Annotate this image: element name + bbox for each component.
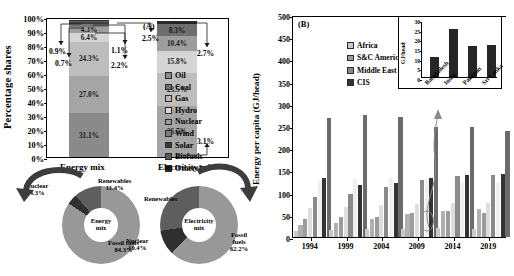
bar-group-1999 xyxy=(329,115,367,237)
bar-africa-2019 xyxy=(472,229,476,237)
legend-swatch xyxy=(347,42,354,49)
panel-b-tick-mark xyxy=(290,84,294,85)
panel-b-x-label-1999: 1999 xyxy=(338,242,354,251)
bar-asiapacific-1999 xyxy=(334,223,338,237)
panel-a-y-tick: 10% xyxy=(27,141,44,150)
donut-electricity-mix-center: Electricity mix xyxy=(182,208,216,242)
legend-swatch xyxy=(347,67,354,74)
panel-b-tick-mark xyxy=(290,61,294,62)
panel-b-tick-mark xyxy=(290,172,294,173)
panel-b-tick-mark xyxy=(290,128,294,129)
panel-a-y-tick: 100% xyxy=(23,15,44,24)
callout-leader-lines xyxy=(47,19,230,159)
bar-europe-2004 xyxy=(389,178,393,237)
bar-africa-1994 xyxy=(294,231,298,237)
legend-label: CIS xyxy=(357,78,370,87)
panel-a-y-tick: 40% xyxy=(27,99,44,108)
inset-plot-area: 302520151050 xyxy=(421,22,497,78)
bar-scamerica-2019 xyxy=(482,213,486,237)
inset-tick-mark xyxy=(420,51,423,52)
panel-b: Energy per capita (GJ/head) (B) 50045040… xyxy=(250,0,514,276)
inset-bar-india xyxy=(449,29,458,77)
inset-y-axis-label: GJ/head xyxy=(400,31,409,75)
donut2-center-line2: mix xyxy=(194,225,205,232)
bar-cis-1999 xyxy=(358,185,362,237)
curved-arrow-to-electricity-donut xyxy=(196,158,254,208)
panel-b-x-label-2004: 2004 xyxy=(373,242,389,251)
panel-b-x-tick xyxy=(311,237,312,241)
inset-tick-mark xyxy=(420,22,423,23)
annotation-arrow-2019 xyxy=(401,109,461,231)
bar-asiapacific-1994 xyxy=(298,225,302,237)
legend-swatch xyxy=(347,55,354,62)
legend-swatch xyxy=(347,79,354,86)
bar-group-2004 xyxy=(365,117,403,237)
panel-a-y-tick: 50% xyxy=(27,85,44,94)
legend-label: Middle East xyxy=(357,66,396,75)
bar-group-1994 xyxy=(294,118,332,237)
bar-world-2019 xyxy=(486,203,490,237)
donut-label-energy-renewables: Renewables 11.4% xyxy=(98,178,131,192)
bar-scamerica-1994 xyxy=(303,219,307,237)
bar-asiapacific-2019 xyxy=(477,209,481,237)
panel-b-x-tick xyxy=(418,237,419,241)
panel-a-y-axis-label: Percentage shares xyxy=(2,22,16,152)
panel-a-y-tick: 60% xyxy=(27,71,44,80)
bar-world-2004 xyxy=(379,205,383,237)
panel-b-y-tick: 100 xyxy=(278,190,290,199)
panel-b-tick-mark xyxy=(290,195,294,196)
curved-arrow-to-energy-donut xyxy=(20,160,90,208)
inset-tick-mark xyxy=(420,61,423,62)
bar-cis-2019 xyxy=(501,174,505,237)
panel-b-y-tick: 300 xyxy=(278,101,290,110)
panel-a: Percentage shares (A) 100%90%80%70%60%50… xyxy=(0,0,250,276)
panel-b-tick-mark xyxy=(290,239,294,240)
bar-europe-2019 xyxy=(496,182,500,237)
bar-africa-2004 xyxy=(365,229,369,237)
inset-tick-mark xyxy=(420,70,423,71)
bar-middleeast-1999 xyxy=(348,194,352,237)
panel-a-y-tick: 90% xyxy=(27,29,44,38)
panel-b-tick-mark xyxy=(290,150,294,151)
panel-b-y-tick: 350 xyxy=(278,79,290,88)
panel-b-x-tick xyxy=(489,237,490,241)
panel-b-x-label-1994: 1994 xyxy=(302,242,318,251)
panel-b-y-tick: 250 xyxy=(278,124,290,133)
panel-a-y-tick: 30% xyxy=(27,113,44,122)
bar-cis-2014 xyxy=(465,175,469,237)
bar-world-1999 xyxy=(344,207,348,237)
legend-label: Africa xyxy=(357,41,378,50)
inset-chart: GJ/head 302520151050 BangladeshIndiaPaki… xyxy=(398,16,502,89)
bar-world-1994 xyxy=(308,208,312,237)
inset-tick-mark xyxy=(420,32,423,33)
panel-b-y-tick: 500 xyxy=(278,13,290,22)
panel-b-x-label-2014: 2014 xyxy=(445,242,461,251)
bar-northamerica-2019 xyxy=(505,131,509,237)
panel-a-y-tick: 70% xyxy=(27,57,44,66)
bar-scamerica-1999 xyxy=(339,217,343,237)
panel-a-y-tick: 80% xyxy=(27,43,44,52)
bar-cis-1994 xyxy=(322,178,326,237)
panel-a-plot-area: (A) 100%90%80%70%60%50%40%30%20%10%0% 4.… xyxy=(46,18,229,158)
legend-label: S&C America xyxy=(357,53,402,62)
bar-asiapacific-2004 xyxy=(370,219,374,237)
panel-b-x-tick xyxy=(382,237,383,241)
panel-b-y-tick: 200 xyxy=(278,146,290,155)
panel-b-tag: (B) xyxy=(298,20,309,29)
panel-b-tick-mark xyxy=(290,217,294,218)
panel-b-tick-mark xyxy=(290,106,294,107)
donut-label-electricity-nuclear: Nuclear 10.4% xyxy=(126,238,148,252)
panel-b-tick-mark xyxy=(290,39,294,40)
panel-b-tick-mark xyxy=(290,17,294,18)
bar-group-2019 xyxy=(472,131,510,237)
bar-africa-1999 xyxy=(329,230,333,237)
donut-label-electricity-renewables: Renewables xyxy=(144,196,177,203)
panel-b-y-axis-label: Energy per capita (GJ/head) xyxy=(251,34,265,224)
panel-b-x-label-2009: 2009 xyxy=(409,242,425,251)
bar-middleeast-1994 xyxy=(313,197,317,237)
donut-label-electricity-fossil: Fossil fuels 62.2% xyxy=(228,232,250,253)
bar-europe-1994 xyxy=(318,180,322,237)
panel-b-y-tick: 400 xyxy=(278,57,290,66)
panel-b-y-tick: 150 xyxy=(278,168,290,177)
donut-center-line2: mix xyxy=(96,225,107,232)
